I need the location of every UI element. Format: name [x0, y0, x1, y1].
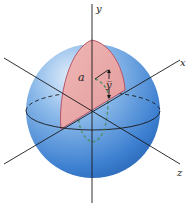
radius-label: a: [78, 71, 85, 84]
centroid-label: y̅: [105, 79, 112, 90]
y-axis-label: y: [95, 3, 102, 14]
x-axis-label: x: [180, 57, 186, 68]
z-axis-label: z: [176, 167, 183, 178]
hemisphere-diagram: y x z a y̅: [0, 0, 190, 208]
